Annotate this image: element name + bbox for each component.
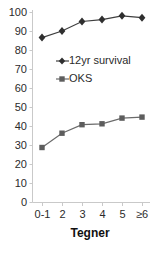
series-markers-oks [39, 114, 144, 150]
x-axis-ticks [43, 203, 143, 207]
series-oks [39, 114, 144, 150]
y-tick-label-60: 60 [0, 83, 27, 94]
y-tick-label-70: 70 [0, 64, 27, 75]
x-tick-label-4: 4 [92, 209, 113, 220]
legend-marker-square [59, 76, 64, 81]
series-12yr-survival [39, 12, 146, 42]
axis-lines [33, 10, 151, 203]
x-tick-label-3: 3 [72, 209, 93, 220]
chart-figure: 100 90 80 70 60 50 40 30 20 10 0 0-1 2 3… [0, 0, 153, 253]
y-tick-label-20: 20 [0, 159, 27, 170]
y-tick-label-100: 100 [0, 7, 27, 18]
y-tick-label-10: 10 [0, 178, 27, 189]
series-line-12yr-survival [42, 16, 142, 38]
y-tick-label-0: 0 [0, 197, 27, 208]
y-tick-label-40: 40 [0, 121, 27, 132]
x-tick-label-6plus: ≥6 [131, 209, 153, 220]
y-tick-label-30: 30 [0, 140, 27, 151]
y-tick-label-80: 80 [0, 45, 27, 56]
y-tick-label-90: 90 [0, 26, 27, 37]
y-tick-label-50: 50 [0, 102, 27, 113]
legend-marker-diamond [59, 57, 65, 64]
x-axis-title: Tegner [32, 226, 148, 240]
x-tick-label-2: 2 [52, 209, 73, 220]
series-line-oks [42, 117, 142, 147]
x-tick-label-5: 5 [112, 209, 133, 220]
legend-label-12yr-survival: 12yr survival [69, 55, 131, 66]
legend-label-oks: OKS [69, 73, 92, 84]
legend-markers [56, 57, 69, 81]
